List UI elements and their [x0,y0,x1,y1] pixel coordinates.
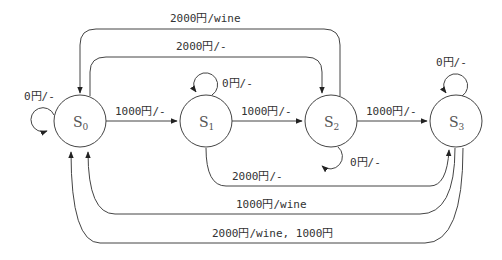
edge-label: 0円/- [222,77,253,90]
edge-label: 0円/- [436,56,467,69]
self-loop-s0 [31,108,54,132]
edge-label: 2000円/- [176,40,227,53]
edge-label: 1000円/- [366,105,417,118]
edge-label: 0円/- [350,156,381,169]
state-s3: S3 [430,95,482,147]
edge-label: 1000円/wine [236,198,307,211]
state-s0: S0 [54,95,106,147]
edge-label: 1000円/- [241,105,292,118]
edge-label: 2000円/- [232,170,283,183]
self-loop-s1 [194,73,218,95]
edge-label: 1000円/- [115,105,166,118]
edge-label: 2000円/wine, 1000円 [212,227,333,240]
edge-s0-s2 [90,57,322,96]
state-s1: S1 [180,95,232,147]
state-s2: S2 [305,95,357,147]
state-diagram: 2000円/wine 2000円/- 2000円/- 1000円/wine 20… [0,0,502,260]
self-loop-s2 [322,147,342,169]
edge-label: 0円/- [24,90,55,103]
self-loop-s3 [444,74,468,96]
edge-label: 2000円/wine [170,12,241,25]
